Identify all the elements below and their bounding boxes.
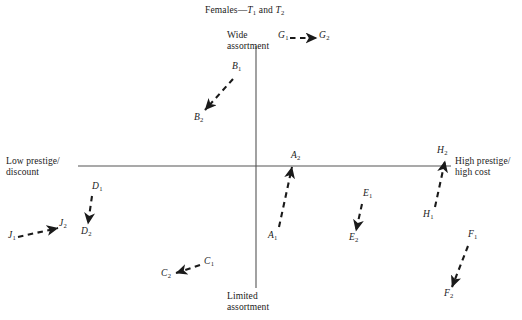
vector-arrow-b — [205, 79, 233, 110]
point-label-j1: J1 — [8, 230, 16, 241]
point-label-e2: E2 — [349, 232, 358, 243]
vector-arrow-c — [176, 265, 200, 273]
point-label-b2: B2 — [194, 112, 203, 123]
point-label-c1: C1 — [204, 256, 214, 267]
point-label-a1: A1 — [268, 230, 277, 241]
point-label-f1: F1 — [468, 229, 477, 240]
vector-arrow-d — [88, 196, 92, 224]
point-label-d1: D1 — [92, 181, 102, 192]
point-label-c2: C2 — [161, 268, 171, 279]
point-label-g1: G1 — [278, 30, 288, 41]
axis-label-top-wide-assortment: Wide assortment — [227, 30, 269, 51]
point-label-e1: E1 — [363, 188, 372, 199]
vector-arrow-h — [435, 161, 445, 207]
vector-arrow-j — [18, 228, 58, 237]
point-label-a2: A2 — [291, 150, 300, 161]
point-label-h2: H2 — [437, 145, 447, 156]
vector-arrow-e — [356, 204, 362, 231]
point-label-h1: H1 — [423, 209, 433, 220]
vectors-group — [18, 38, 468, 287]
point-label-g2: G2 — [319, 30, 329, 41]
point-label-j2: J2 — [59, 218, 67, 229]
point-label-d2: D2 — [81, 226, 91, 237]
point-label-b1: B1 — [232, 61, 241, 72]
chart-title: Females—T1 and T2 — [205, 5, 284, 16]
axis-label-right-high-prestige-high-cost: High prestige/ high cost — [455, 156, 511, 177]
vector-arrow-f — [452, 246, 468, 287]
axis-label-bottom-limited-assortment: Limited assortment — [227, 291, 269, 312]
point-label-f2: F2 — [444, 288, 453, 299]
axis-label-left-low-prestige-discount: Low prestige/ discount — [6, 156, 60, 177]
axes-group — [78, 46, 451, 288]
vector-arrow-a — [279, 167, 292, 227]
